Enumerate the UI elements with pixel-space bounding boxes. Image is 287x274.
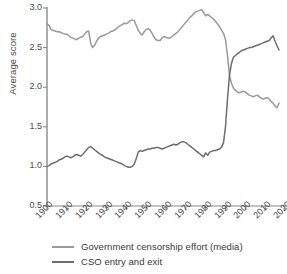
legend-label: CSO entry and exit <box>81 256 162 267</box>
x-axis-tick-label: 2010 <box>252 200 273 221</box>
legend-color-swatch <box>52 246 74 248</box>
x-axis-tick-label: 1940 <box>113 200 134 221</box>
x-axis-tick-label: 2000 <box>232 200 253 221</box>
x-axis-tick-label: 1960 <box>153 200 174 221</box>
x-axis-tick-label: 1990 <box>213 200 234 221</box>
x-axis-tick-label: 2020 <box>272 200 287 221</box>
x-axis-tick-labels: 1900191019201930194019501960197019801990… <box>0 0 287 274</box>
chart-legend: Government censorship effort (media)CSO … <box>52 239 284 269</box>
legend-item[interactable]: Government censorship effort (media) <box>52 239 284 254</box>
x-axis-tick-label: 1980 <box>193 200 214 221</box>
x-axis-tick-label: 1930 <box>94 200 115 221</box>
chart-container: Average score 3.02.52.01.51.00.5 1900191… <box>0 0 287 274</box>
x-axis-tick-label: 1900 <box>34 200 55 221</box>
legend-item[interactable]: CSO entry and exit <box>52 254 284 269</box>
x-axis-tick-label: 1920 <box>74 200 95 221</box>
x-axis-tick-label: 1970 <box>173 200 194 221</box>
legend-color-swatch <box>52 261 74 263</box>
x-axis-tick-label: 1910 <box>54 200 75 221</box>
legend-label: Government censorship effort (media) <box>81 241 243 252</box>
x-axis-tick-label: 1950 <box>133 200 154 221</box>
